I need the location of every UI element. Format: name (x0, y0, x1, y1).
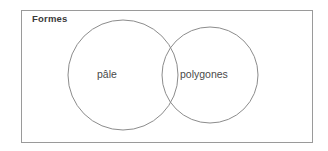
set-label-right: polygones (180, 68, 228, 81)
venn-circles-layer (0, 0, 328, 151)
venn-diagram: Formes pâle polygones (0, 0, 328, 151)
set-label-left: pâle (97, 68, 117, 81)
